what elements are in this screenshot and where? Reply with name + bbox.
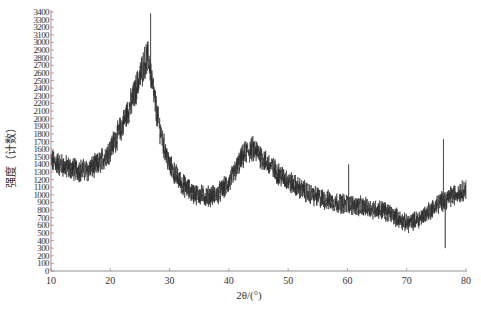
x-tick-label: 30 [165,275,175,286]
x-tick-label: 10 [46,275,56,286]
xrd-chart: 0100200300400500600700800900100011001200… [0,0,481,312]
xrd-trace-line [51,14,466,249]
x-tick-label: 80 [461,275,471,286]
x-tick-label: 40 [224,275,234,286]
y-axis-title: 强度（计数） [4,122,17,188]
x-tick-label: 70 [402,275,412,286]
x-tick-label: 60 [342,275,352,286]
y-tick-label: 3400 [33,7,50,17]
x-axis-title: 2θ/(°) [236,289,262,302]
x-tick-label: 20 [105,275,115,286]
plot-area [51,14,466,249]
x-tick-label: 50 [283,275,293,286]
